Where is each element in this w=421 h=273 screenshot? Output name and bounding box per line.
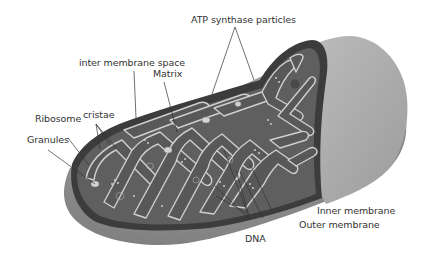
- label-outer-membrane: Outer membrane: [299, 219, 380, 230]
- label-inner-membrane: Inner membrane: [317, 205, 395, 216]
- label-ribosome: Ribosome: [35, 113, 81, 124]
- dna-body: [291, 80, 300, 89]
- label-atp-synthase: ATP synthase particles: [191, 14, 296, 25]
- label-inter-membrane-space: inter membrane space: [79, 57, 185, 68]
- label-cristae: cristae: [83, 109, 114, 120]
- label-dna: DNA: [245, 233, 266, 244]
- label-granules: Granules: [27, 134, 69, 145]
- label-matrix: Matrix: [153, 68, 182, 79]
